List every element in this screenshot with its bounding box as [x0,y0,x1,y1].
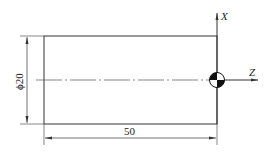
technical-drawing: X Z ϕ20 50 [0,0,270,160]
workpiece-zero-icon [210,73,225,88]
x-axis-label: X [220,10,229,22]
z-axis-label: Z [249,66,256,78]
length-label: 50 [124,125,136,137]
diameter-label: ϕ20 [13,73,25,90]
